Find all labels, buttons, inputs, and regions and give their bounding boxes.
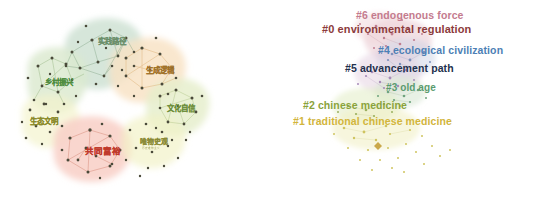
cluster-label-3-old-age: #3 old age [386,83,436,93]
cluster-label-shengcheng-luoji: 生成逻辑 [146,67,174,75]
cluster-label-6-endogenous-force: #6 endogenous force [356,10,464,21]
chinese-keyword-cluster-map: 实践路径 乡村振兴 生成逻辑 文化自信 生态文明 共同富裕 唯物史观 历史唯物主… [0,0,280,197]
cluster-label-weiwu-shiguan: 唯物史观 [140,139,168,146]
cluster-label-shengtai-wenming: 生态文明 [30,118,58,126]
cluster-label-shijian-lujing: 实践路径 [98,38,126,46]
cluster-label-wenhua-zixin: 文化自信 [167,105,195,113]
cluster-label-0-environmental-regulation: #0 environmental regulation [322,24,471,35]
figure-canvas: 实践路径 乡村振兴 生成逻辑 文化自信 生态文明 共同富裕 唯物史观 历史唯物主… [0,0,559,197]
cluster-label-1-traditional-chinese-medicine: #1 traditional chinese medicine [293,116,452,127]
cluster-label-5-advancement-path: #5 advancement path [345,63,454,74]
cluster-label-4-ecological-civilization: #4 ecological civilization [378,45,503,56]
cluster-label-2-chinese-medicine: #2 chinese medicine [303,100,407,111]
cluster-label-xiangcun-zhenxing: 乡村振兴 [45,79,73,87]
left-network-svg [0,0,280,197]
cluster-label-gongtong-fuyu: 共同富裕 [85,147,121,156]
english-numbered-cluster-map: #6 endogenous force #0 environmental reg… [280,0,559,197]
cluster-sublabel-weiwu-shiguan: 历史唯物主义 [142,148,160,151]
